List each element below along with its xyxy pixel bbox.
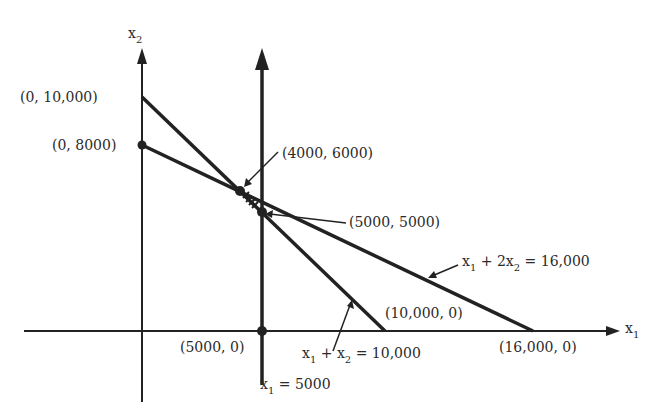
label-5000-5000: (5000, 5000) <box>349 214 440 230</box>
constraint-line-x1-plus-2x2 <box>142 145 533 331</box>
label-constraint-x1-plus-x2: x1 + x2 = 10,000 <box>302 345 421 365</box>
label-5000-0: (5000, 0) <box>180 339 244 355</box>
label-0-8000: (0, 8000) <box>52 137 116 153</box>
point-5000-5000 <box>257 207 267 217</box>
lp-diagram: x1 x2 (0, 10,000) (0, 8000) (4000, 6000)… <box>0 0 649 420</box>
x1-axis-label: x1 <box>625 320 639 340</box>
leader-c1 <box>428 265 458 278</box>
label-4000-6000: (4000, 6000) <box>282 145 373 161</box>
point-5000-0 <box>257 326 267 336</box>
label-0-10000: (0, 10,000) <box>20 89 98 105</box>
label-16000-0: (16,000, 0) <box>499 339 577 355</box>
label-10000-0: (10,000, 0) <box>385 305 463 321</box>
constraint-arrow-icon <box>255 48 269 70</box>
x2-axis-arrow-icon <box>137 48 147 64</box>
x1-axis-arrow-icon <box>606 326 620 336</box>
leader-c2 <box>333 300 354 351</box>
point-0-8000 <box>138 141 147 150</box>
point-4000-6000 <box>235 186 245 196</box>
x2-axis-label: x2 <box>128 25 142 45</box>
label-constraint-x1-plus-2x2: x1 + 2x2 = 16,000 <box>462 253 590 273</box>
label-constraint-x1-5000: x1 = 5000 <box>260 376 331 396</box>
